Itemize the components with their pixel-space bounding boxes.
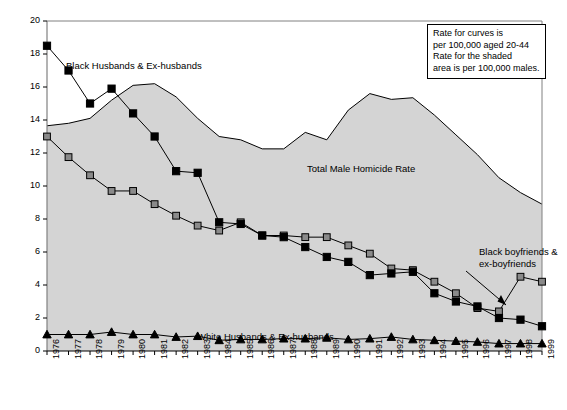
x-axis-tick-label: 1994 <box>438 339 448 359</box>
note-line-1: Rate for curves is <box>433 28 540 40</box>
y-axis-tick-label: 0 <box>18 345 40 355</box>
total-male-homicide-label: Total Male Homicide Rate <box>307 163 415 174</box>
black-boyfriends-label-line2: ex-boyfriends <box>479 258 558 270</box>
x-axis-tick-label: 1976 <box>51 339 61 359</box>
black-boyfriends-label: Black boyfriends & ex-boyfriends <box>479 246 558 270</box>
x-axis-tick-label: 1999 <box>546 339 556 359</box>
y-axis-tick-label: 4 <box>18 279 40 289</box>
note-line-2: per 100,000 aged 20-44 <box>433 40 540 52</box>
y-axis-tick-label: 2 <box>18 312 40 322</box>
total-male-homicide-area <box>47 84 542 351</box>
x-axis-tick-label: 1978 <box>94 339 104 359</box>
y-axis-tick-label: 16 <box>18 81 40 91</box>
note-box: Rate for curves is per 100,000 aged 20-4… <box>427 24 546 79</box>
x-axis-tick-label: 1993 <box>417 339 427 359</box>
black-boyfriends-label-line1: Black boyfriends & <box>479 246 558 258</box>
x-axis-tick-label: 1980 <box>137 339 147 359</box>
x-axis-tick-label: 1990 <box>352 339 362 359</box>
x-axis-tick-label: 1982 <box>180 339 190 359</box>
x-axis-tick-label: 1991 <box>374 339 384 359</box>
y-axis-tick-label: 10 <box>18 180 40 190</box>
x-axis-tick-label: 1981 <box>159 339 169 359</box>
x-axis-tick-label: 1977 <box>73 339 83 359</box>
x-axis-tick-label: 1997 <box>503 339 513 359</box>
chart-container: 02468101214161820 1976197719781979198019… <box>0 0 567 410</box>
white-husbands-label: White Husbands & Ex-husbands <box>197 331 334 342</box>
y-axis-tick-label: 12 <box>18 147 40 157</box>
y-axis-tick-label: 18 <box>18 48 40 58</box>
x-axis-tick-label: 1998 <box>524 339 534 359</box>
y-axis-tick-label: 14 <box>18 114 40 124</box>
note-line-3: Rate for the shaded <box>433 51 540 63</box>
note-line-4: area is per 100,000 males. <box>433 63 540 75</box>
y-axis-tick-label: 8 <box>18 213 40 223</box>
x-axis-tick-label: 1995 <box>460 339 470 359</box>
black-husbands-label: Black Husbands & Ex-husbands <box>66 60 202 71</box>
y-axis-tick-label: 6 <box>18 246 40 256</box>
x-axis-tick-label: 1979 <box>116 339 126 359</box>
x-axis-tick-label: 1996 <box>481 339 491 359</box>
y-axis-tick-label: 20 <box>18 15 40 25</box>
x-axis-tick-label: 1992 <box>395 339 405 359</box>
